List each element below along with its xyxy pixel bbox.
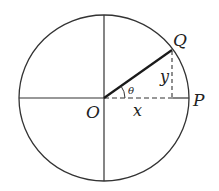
label-q: Q bbox=[173, 30, 187, 50]
angle-arc bbox=[121, 86, 125, 98]
label-theta: θ bbox=[128, 85, 134, 96]
label-x: x bbox=[133, 101, 142, 120]
label-p: P bbox=[192, 90, 205, 110]
label-o: O bbox=[86, 102, 100, 122]
unit-circle-diagram: Q P O x y θ bbox=[0, 0, 219, 191]
label-y: y bbox=[159, 67, 170, 86]
